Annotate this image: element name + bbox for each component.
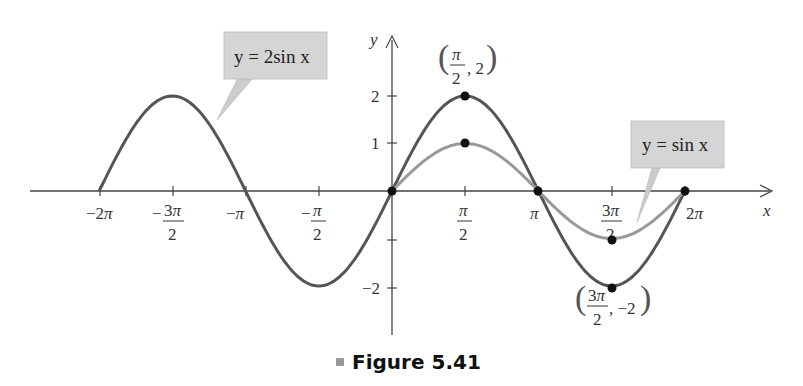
svg-text:−2π: −2π <box>86 204 113 223</box>
point-max-label: ( π 2 , 2 ) <box>438 38 497 88</box>
svg-text:−2: −2 <box>362 279 380 298</box>
svg-text:y = 2sin x: y = 2sin x <box>234 46 310 67</box>
svg-text:2: 2 <box>371 87 380 106</box>
svg-text:y = sin x: y = sin x <box>642 134 709 155</box>
svg-text:−: − <box>301 204 311 223</box>
svg-text:π: π <box>452 45 461 64</box>
svg-text:2: 2 <box>452 69 461 88</box>
svg-text:(: ( <box>575 279 586 317</box>
svg-text:π: π <box>530 204 539 223</box>
svg-text:2π: 2π <box>686 204 704 223</box>
svg-text:−: − <box>152 204 162 223</box>
svg-text:3π: 3π <box>588 286 606 305</box>
svg-text:, 2: , 2 <box>467 59 484 78</box>
svg-text:3π: 3π <box>602 201 620 220</box>
svg-text:−π: −π <box>226 204 245 223</box>
figure-caption: Figure 5.41 <box>336 350 481 374</box>
svg-text:3π: 3π <box>164 201 182 220</box>
svg-text:): ) <box>640 279 651 317</box>
svg-text:2: 2 <box>168 225 177 244</box>
svg-text:): ) <box>486 38 497 76</box>
caption-text: Figure 5.41 <box>352 350 481 374</box>
svg-text:π: π <box>313 201 322 220</box>
svg-text:2: 2 <box>313 225 322 244</box>
callout-2sin: y = 2sin x <box>217 32 327 120</box>
svg-text:2: 2 <box>593 310 602 329</box>
svg-text:π: π <box>459 201 468 220</box>
y-axis-label: y <box>368 30 378 49</box>
svg-text:1: 1 <box>371 134 380 153</box>
svg-text:, −2: , −2 <box>609 299 636 318</box>
svg-text:(: ( <box>438 38 449 76</box>
x-axis-label: x <box>762 201 771 220</box>
caption-square-icon <box>336 358 344 366</box>
sine-graph: −2π −3π 2 −π −π 2 π 2 π 3π 2 2π 2 1 −2 y… <box>0 0 803 386</box>
y-tick-labels: 2 1 −2 <box>362 87 380 298</box>
svg-text:2: 2 <box>459 225 468 244</box>
